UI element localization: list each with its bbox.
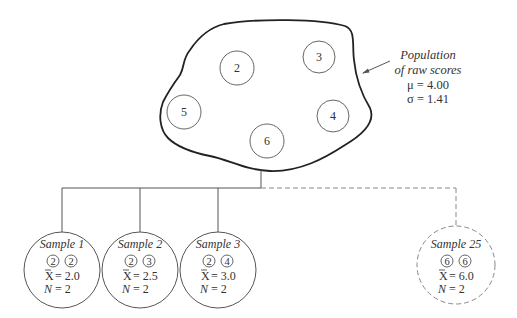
- sample-title: Sample 2: [118, 237, 162, 251]
- sample-1: Sample 1 2 2 X = 2.0 N = 2: [24, 232, 100, 308]
- population-outline: [160, 20, 371, 171]
- svg-text:2: 2: [50, 256, 55, 267]
- sample-mean: = 6.0: [449, 269, 474, 283]
- sample-mean: = 2.0: [55, 269, 80, 283]
- svg-text:of raw scores: of raw scores: [395, 63, 462, 77]
- sample-n: = 2: [211, 282, 227, 296]
- svg-text:3: 3: [316, 50, 322, 64]
- sample-n: = 2: [133, 282, 149, 296]
- sample-mean: = 3.0: [211, 269, 236, 283]
- population-mu: μ = 4.00: [407, 78, 449, 92]
- svg-text:4: 4: [224, 256, 230, 267]
- svg-text:N: N: [199, 282, 209, 296]
- svg-text:6: 6: [462, 256, 467, 267]
- sample-mean-symbol: X: [201, 269, 210, 283]
- sample-n: = 2: [55, 282, 71, 296]
- sampling-diagram: 2 3 5 4 6 Population of raw scores μ = 4…: [0, 0, 517, 318]
- population-label: Population of raw scores μ = 4.00 σ = 1.…: [395, 48, 462, 106]
- sample-3: Sample 3 2 4 X = 3.0 N = 2: [180, 232, 256, 308]
- svg-text:N: N: [437, 282, 447, 296]
- svg-text:5: 5: [181, 105, 187, 119]
- connector-lines: [62, 170, 456, 232]
- sample-25: Sample 25 6 6 X = 6.0 N = 2: [417, 226, 495, 304]
- sample-title: Sample 1: [40, 237, 84, 251]
- sample-mean: = 2.5: [133, 269, 158, 283]
- svg-text:4: 4: [330, 109, 336, 123]
- svg-text:2: 2: [128, 256, 133, 267]
- svg-text:2: 2: [234, 61, 240, 75]
- svg-text:N: N: [43, 282, 53, 296]
- svg-text:6: 6: [444, 256, 449, 267]
- sample-2: Sample 2 2 3 X = 2.5 N = 2: [102, 232, 178, 308]
- svg-text:6: 6: [264, 134, 270, 148]
- sample-mean-symbol: X: [439, 269, 448, 283]
- population-score-3: 3: [303, 41, 335, 73]
- sample-mean-symbol: X: [45, 269, 54, 283]
- sample-n: = 2: [449, 282, 465, 296]
- sample-mean-symbol: X: [123, 269, 132, 283]
- svg-text:2: 2: [206, 256, 211, 267]
- svg-text:Population: Population: [399, 48, 456, 62]
- svg-text:2: 2: [68, 256, 73, 267]
- population-score-2: 2: [220, 51, 254, 85]
- population-score-4: 4: [317, 100, 349, 132]
- svg-text:3: 3: [146, 256, 151, 267]
- population-score-5: 5: [167, 95, 201, 129]
- population-score-6: 6: [250, 124, 284, 158]
- population-sigma: σ = 1.41: [407, 92, 449, 106]
- sample-title: Sample 3: [196, 237, 240, 251]
- sample-title: Sample 25: [431, 237, 481, 251]
- svg-text:N: N: [121, 282, 131, 296]
- population-arrow-icon: [362, 61, 390, 74]
